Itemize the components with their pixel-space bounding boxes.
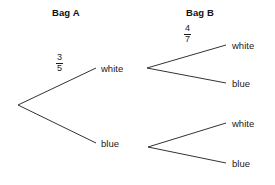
- branch-a-blue-to-b-white: [148, 123, 226, 147]
- node-label-bag-b-blue-upper: blue: [232, 78, 250, 89]
- node-label-bag-b-blue-lower: blue: [232, 158, 250, 169]
- tree-diagram-canvas: Bag A Bag B 3 5 4 7 white blue white blu…: [0, 0, 275, 185]
- fraction-numerator: 4: [184, 24, 191, 33]
- node-label-bag-a-blue: blue: [101, 138, 119, 149]
- fraction-denominator: 7: [184, 35, 191, 44]
- fraction-denominator: 5: [56, 64, 63, 73]
- node-label-bag-a-white: white: [101, 63, 123, 74]
- fraction-numerator: 3: [56, 53, 63, 62]
- branch-root-to-a-white: [18, 68, 96, 105]
- column-header-bag-b: Bag B: [186, 7, 214, 18]
- node-label-bag-b-white-lower: white: [232, 118, 254, 129]
- branch-probability-bag-a-white: 3 5: [56, 53, 63, 73]
- branch-probability-bag-b-white: 4 7: [184, 24, 191, 44]
- branch-a-white-to-b-blue: [147, 68, 226, 83]
- branch-a-white-to-b-white: [147, 45, 226, 68]
- node-label-bag-b-white-upper: white: [232, 40, 254, 51]
- branch-root-to-a-blue: [18, 105, 96, 143]
- branch-a-blue-to-b-blue: [148, 147, 226, 163]
- column-header-bag-a: Bag A: [52, 7, 80, 18]
